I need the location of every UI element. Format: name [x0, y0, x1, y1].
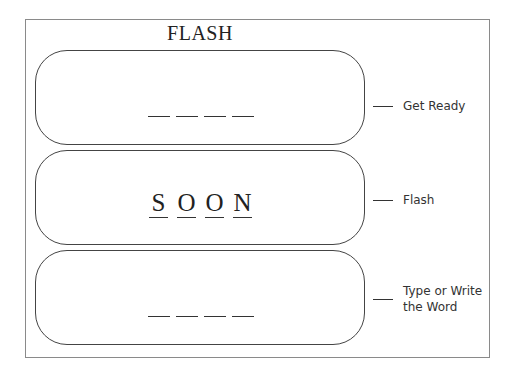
diagram-title: FLASH — [140, 22, 260, 45]
letter-4: N — [233, 191, 252, 218]
flash-callout: Flash — [373, 192, 434, 208]
flash-panel: S O O N — [35, 150, 365, 245]
blank-4 — [232, 116, 254, 117]
type-or-write-label: Type or Write the Word — [403, 283, 493, 315]
letter-2: O — [177, 191, 196, 218]
connector-line — [373, 299, 393, 300]
flashed-word: S O O N — [149, 191, 252, 218]
letter-1: S — [149, 191, 168, 218]
blank-placeholders — [148, 116, 254, 118]
blank-2 — [176, 316, 198, 317]
blank-1 — [148, 116, 170, 117]
blank-4 — [232, 316, 254, 317]
label-line-1: Type or Write — [403, 284, 482, 298]
type-or-write-callout: Type or Write the Word — [373, 283, 493, 315]
blank-2 — [176, 116, 198, 117]
blank-3 — [204, 316, 226, 317]
get-ready-panel — [35, 50, 365, 145]
blank-placeholders — [148, 316, 254, 318]
get-ready-callout: Get Ready — [373, 98, 465, 114]
connector-line — [373, 200, 393, 201]
label-line-2: the Word — [403, 300, 457, 314]
connector-line — [373, 106, 393, 107]
get-ready-label: Get Ready — [403, 98, 465, 114]
blank-1 — [148, 316, 170, 317]
blank-3 — [204, 116, 226, 117]
flash-label: Flash — [403, 192, 434, 208]
letter-3: O — [205, 191, 224, 218]
type-or-write-panel — [35, 250, 365, 345]
